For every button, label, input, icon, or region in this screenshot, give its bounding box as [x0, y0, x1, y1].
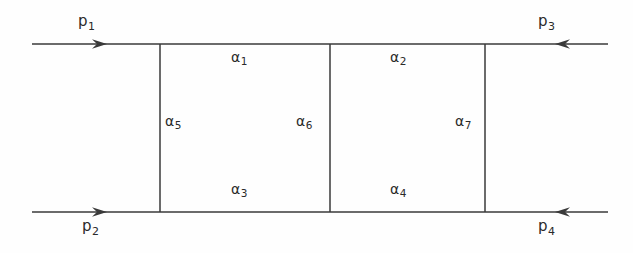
momentum-label-p2-base: p — [82, 217, 92, 235]
index-label-alpha7: α7 — [455, 114, 471, 131]
index-label-alpha1-base: α — [231, 49, 240, 65]
momentum-label-p1-sub: 1 — [88, 20, 95, 33]
momentum-label-p3-sub: 3 — [548, 20, 555, 33]
index-label-alpha2-sub: 2 — [400, 55, 407, 67]
index-label-alpha3-base: α — [231, 181, 240, 197]
momentum-label-p2-sub: 2 — [92, 225, 99, 238]
index-label-alpha3-sub: 3 — [241, 187, 248, 199]
index-label-alpha2: α2 — [390, 50, 406, 67]
index-label-alpha4-base: α — [390, 181, 399, 197]
momentum-label-p2: p2 — [82, 219, 99, 237]
index-label-alpha5: α5 — [165, 114, 181, 131]
momentum-label-p4-sub: 4 — [548, 225, 555, 238]
index-label-alpha3: α3 — [231, 182, 247, 199]
index-label-alpha6: α6 — [296, 114, 312, 131]
momentum-label-p1: p1 — [78, 14, 95, 32]
momentum-label-p4-base: p — [538, 217, 548, 235]
index-label-alpha1-sub: 1 — [241, 55, 248, 67]
index-label-alpha6-sub: 6 — [306, 119, 313, 131]
index-label-alpha7-base: α — [455, 113, 464, 129]
index-label-alpha6-base: α — [296, 113, 305, 129]
ladder-diagram-figure: p1 p3 p2 p4 α1 α2 α3 α4 α5 α6 α7 — [0, 0, 633, 253]
momentum-label-p4: p4 — [538, 219, 555, 237]
momentum-label-p1-base: p — [78, 12, 88, 30]
index-label-alpha7-sub: 7 — [465, 119, 472, 131]
index-label-alpha1: α1 — [231, 50, 247, 67]
index-label-alpha4-sub: 4 — [400, 187, 407, 199]
index-label-alpha5-sub: 5 — [175, 119, 182, 131]
momentum-label-p3: p3 — [538, 14, 555, 32]
momentum-label-p3-base: p — [538, 12, 548, 30]
diagram-canvas — [0, 0, 633, 253]
index-label-alpha5-base: α — [165, 113, 174, 129]
index-label-alpha4: α4 — [390, 182, 406, 199]
index-label-alpha2-base: α — [390, 49, 399, 65]
